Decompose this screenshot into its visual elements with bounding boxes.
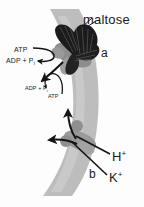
label-adp-upper: ADP + Pi bbox=[6, 57, 35, 67]
atp-hydrolysis-arrow-upper bbox=[33, 48, 54, 61]
label-proton-text: H bbox=[112, 149, 121, 164]
label-adp-lower: ADP + Pi bbox=[25, 86, 48, 94]
membrane-transport-diagram: maltose a b ATP ADP + Pi ADP + Pi ATP H+… bbox=[0, 0, 144, 207]
label-adp-upper-subscript: i bbox=[34, 61, 35, 66]
label-proton-charge: + bbox=[121, 149, 126, 158]
label-atp-upper: ATP bbox=[14, 46, 27, 53]
label-maltose: maltose bbox=[83, 13, 130, 26]
label-potassium-text: K bbox=[109, 170, 118, 185]
label-transporter-a: a bbox=[101, 47, 108, 59]
label-proton: H+ bbox=[112, 150, 126, 163]
label-transporter-b: b bbox=[89, 168, 96, 180]
label-potassium-charge: + bbox=[118, 170, 123, 179]
diagram-canvas bbox=[0, 0, 144, 207]
label-adp-lower-text: ADP + P bbox=[25, 85, 47, 91]
label-potassium: K+ bbox=[109, 171, 122, 184]
label-atp-lower: ATP bbox=[48, 94, 59, 100]
label-adp-upper-text: ADP + P bbox=[6, 57, 34, 64]
